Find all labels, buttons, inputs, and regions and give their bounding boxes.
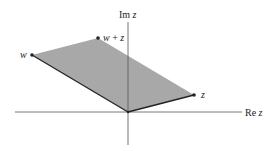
label-w-plus-z: w + z (103, 32, 124, 43)
real-axis-label: Re z (245, 107, 263, 118)
origin-point (127, 111, 129, 113)
label-z: z (200, 89, 205, 100)
point-w-plus-z (96, 36, 100, 40)
complex-plane-diagram: Im z Re z z w w + z (0, 0, 278, 151)
label-w: w (20, 49, 27, 60)
point-w (30, 53, 34, 57)
point-z (192, 93, 196, 97)
imaginary-axis-label: Im z (119, 9, 137, 20)
